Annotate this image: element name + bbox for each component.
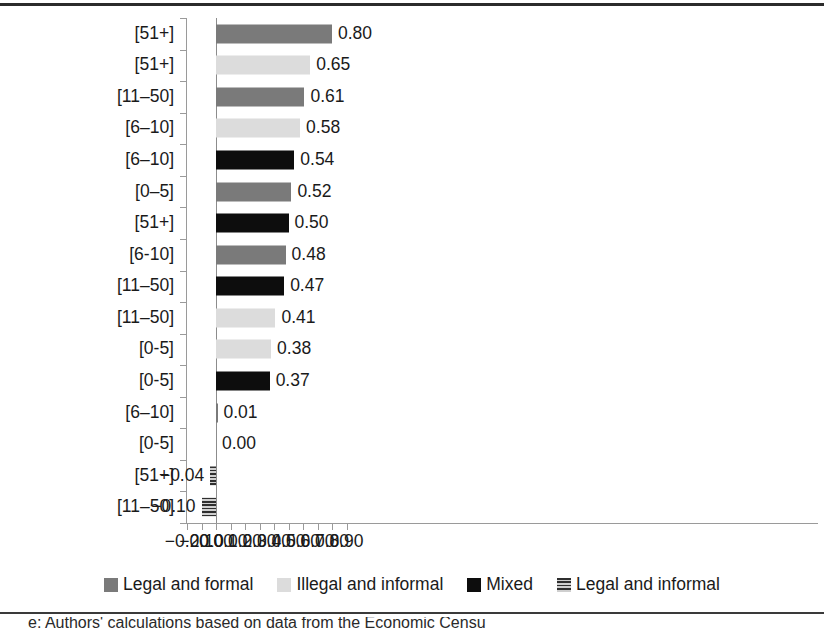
bar-mixed[interactable] bbox=[216, 214, 289, 233]
y-axis-tick bbox=[180, 113, 187, 114]
bar-value-label: 0.54 bbox=[300, 151, 334, 169]
bar-row[interactable]: 0.54 bbox=[187, 144, 818, 176]
bar-illegal-informal[interactable] bbox=[216, 119, 300, 138]
bar-value-label: 0.52 bbox=[297, 183, 331, 201]
bar-row[interactable]: −0.04 bbox=[187, 460, 818, 492]
y-axis-tick bbox=[180, 397, 187, 398]
legend-label: Mixed bbox=[486, 576, 533, 594]
bar-chart-figure: [51+][51+][11–50][6–10][6–10][0–5][51+][… bbox=[0, 6, 824, 600]
bar-row[interactable]: 0.48 bbox=[187, 239, 818, 271]
bar-illegal-informal[interactable] bbox=[216, 340, 271, 359]
x-axis-tick bbox=[274, 523, 275, 530]
bar-value-label: 0.37 bbox=[276, 372, 310, 390]
bar-row[interactable]: 0.41 bbox=[187, 302, 818, 334]
category-label: [11–50] bbox=[117, 309, 174, 327]
bar-row[interactable]: 0.50 bbox=[187, 207, 818, 239]
x-axis-tick bbox=[289, 523, 290, 530]
bar-illegal-informal[interactable] bbox=[216, 308, 275, 327]
legend-item-legal-informal[interactable]: Legal and informal bbox=[557, 576, 720, 594]
y-axis-tick bbox=[180, 81, 187, 82]
y-axis-tick bbox=[180, 176, 187, 177]
bar-row[interactable]: 0.38 bbox=[187, 334, 818, 366]
category-axis-labels: [51+][51+][11–50][6–10][6–10][0–5][51+][… bbox=[28, 18, 180, 523]
bar-row[interactable]: 0.00 bbox=[187, 428, 818, 460]
legend-label: Legal and informal bbox=[576, 576, 720, 594]
bar-mixed[interactable] bbox=[216, 151, 294, 170]
x-axis-tick bbox=[260, 523, 261, 530]
y-axis-tick bbox=[180, 302, 187, 303]
x-axis-tick bbox=[202, 523, 203, 530]
legend-swatch-icon bbox=[467, 578, 481, 592]
bar-legal-informal[interactable] bbox=[210, 466, 216, 485]
x-axis-tick bbox=[231, 523, 232, 530]
x-axis-tick bbox=[318, 523, 319, 530]
category-label: [6–10] bbox=[125, 404, 174, 422]
bar-value-label: 0.65 bbox=[316, 57, 350, 75]
x-axis-tick bbox=[303, 523, 304, 530]
y-axis-tick bbox=[180, 207, 187, 208]
category-label: [0-5] bbox=[139, 372, 174, 390]
caption-text: e: Authors' calculations based on data f… bbox=[28, 617, 486, 631]
category-label: [0-5] bbox=[139, 435, 174, 453]
category-label: [0-5] bbox=[139, 341, 174, 359]
category-label: [6-10] bbox=[129, 246, 174, 264]
bar-value-label: 0.80 bbox=[338, 25, 372, 43]
y-axis-tick bbox=[180, 50, 187, 51]
bar-value-label: 0.47 bbox=[290, 278, 324, 296]
bar-mixed[interactable] bbox=[216, 277, 284, 296]
bar-row[interactable]: 0.65 bbox=[187, 50, 818, 82]
bar-value-label: 0.61 bbox=[310, 88, 344, 106]
legend-item-illegal-informal[interactable]: Illegal and informal bbox=[277, 576, 443, 594]
bar-row[interactable]: 0.47 bbox=[187, 271, 818, 303]
bar-legal-formal[interactable] bbox=[216, 182, 291, 201]
bar-row[interactable]: 0.01 bbox=[187, 397, 818, 429]
bar-mixed[interactable] bbox=[216, 371, 270, 390]
legend-swatch-icon bbox=[557, 578, 571, 592]
y-axis-tick bbox=[180, 460, 187, 461]
legend-swatch-icon bbox=[277, 578, 291, 592]
x-axis-tick bbox=[347, 523, 348, 530]
bar-row[interactable]: 0.58 bbox=[187, 113, 818, 145]
legend-item-legal-formal[interactable]: Legal and formal bbox=[104, 576, 253, 594]
bar-row[interactable]: 0.61 bbox=[187, 81, 818, 113]
bar-row[interactable]: 0.80 bbox=[187, 18, 818, 50]
x-axis-tick bbox=[187, 523, 188, 530]
bar-row[interactable]: 0.52 bbox=[187, 176, 818, 208]
bar-value-label: 0.38 bbox=[277, 341, 311, 359]
y-axis-tick bbox=[180, 18, 187, 19]
category-label: [51+] bbox=[135, 25, 174, 43]
bar-row[interactable]: 0.37 bbox=[187, 365, 818, 397]
legend-item-mixed[interactable]: Mixed bbox=[467, 576, 533, 594]
y-axis-tick bbox=[180, 144, 187, 145]
bar-legal-formal[interactable] bbox=[216, 245, 286, 264]
x-axis-line bbox=[187, 523, 818, 524]
category-label: [6–10] bbox=[125, 151, 174, 169]
bar-value-label: 0.58 bbox=[306, 120, 340, 138]
category-label: [6–10] bbox=[125, 120, 174, 138]
y-axis-tick bbox=[180, 491, 187, 492]
bar-value-label: 0.00 bbox=[222, 435, 256, 453]
bar-legal-formal[interactable] bbox=[216, 24, 332, 43]
legend-label: Illegal and informal bbox=[296, 576, 443, 594]
y-axis-tick bbox=[180, 523, 187, 524]
category-label: [11–50] bbox=[117, 278, 174, 296]
category-label: [51+] bbox=[135, 57, 174, 75]
y-axis-tick bbox=[180, 271, 187, 272]
category-label: [51+] bbox=[135, 214, 174, 232]
bar-value-label: 0.48 bbox=[292, 246, 326, 264]
caption-rule bbox=[0, 612, 824, 614]
category-label: [0–5] bbox=[135, 183, 174, 201]
chart-legend: Legal and formalIllegal and informalMixe… bbox=[0, 572, 824, 598]
bars-container: 0.800.650.610.580.540.520.500.480.470.41… bbox=[187, 18, 818, 523]
bar-row[interactable]: −0.10 bbox=[187, 491, 818, 523]
bar-value-label: −0.10 bbox=[151, 498, 195, 516]
bar-legal-formal[interactable] bbox=[216, 403, 218, 422]
bar-value-label: 0.50 bbox=[295, 214, 329, 232]
y-axis-tick bbox=[180, 428, 187, 429]
x-axis-tick bbox=[216, 523, 217, 530]
x-axis-tick bbox=[332, 523, 333, 530]
bar-legal-informal[interactable] bbox=[202, 498, 217, 517]
bar-value-label: −0.04 bbox=[160, 467, 204, 485]
bar-illegal-informal[interactable] bbox=[216, 56, 310, 75]
bar-legal-formal[interactable] bbox=[216, 87, 304, 106]
